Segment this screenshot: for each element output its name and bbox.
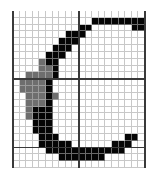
- pixel-empty: [92, 45, 99, 52]
- pixel-empty: [105, 127, 112, 134]
- pixel-empty: [39, 11, 46, 18]
- pixel-empty: [132, 93, 139, 100]
- pixel-empty: [105, 45, 112, 52]
- pixel-black: [33, 113, 40, 120]
- pixel-black: [46, 113, 53, 120]
- pixel-empty: [46, 18, 53, 25]
- pixel-empty: [20, 113, 27, 120]
- pixel-empty: [112, 38, 119, 45]
- pixel-gray: [26, 86, 33, 93]
- pixel-empty: [105, 134, 112, 141]
- pixel-empty: [66, 52, 73, 59]
- pixel-empty: [33, 38, 40, 45]
- pixel-empty: [66, 113, 73, 120]
- pixel-empty: [26, 59, 33, 66]
- pixel-empty: [66, 127, 73, 134]
- pixel-empty: [26, 134, 33, 141]
- pixel-empty: [112, 161, 119, 168]
- pixel-black: [39, 127, 46, 134]
- pixel-black: [59, 45, 66, 52]
- pixel-empty: [105, 107, 112, 114]
- pixel-empty: [79, 161, 86, 168]
- pixel-empty: [39, 31, 46, 38]
- pixel-empty: [53, 154, 60, 161]
- pixel-gray: [46, 66, 53, 73]
- pixel-black: [92, 154, 99, 161]
- pixel-black: [105, 148, 112, 155]
- pixel-empty: [66, 25, 73, 32]
- pixel-empty: [99, 161, 106, 168]
- pixel-black: [92, 18, 99, 25]
- pixel-empty: [92, 86, 99, 93]
- pixel-empty: [33, 66, 40, 73]
- pixel-empty: [46, 154, 53, 161]
- pixel-empty: [46, 38, 53, 45]
- pixel-empty: [86, 31, 93, 38]
- pixel-empty: [79, 66, 86, 73]
- pixel-empty: [33, 25, 40, 32]
- pixel-empty: [125, 154, 132, 161]
- pixel-empty: [79, 38, 86, 45]
- pixel-empty: [26, 120, 33, 127]
- pixel-empty: [119, 86, 126, 93]
- pixel-empty: [39, 38, 46, 45]
- pixel-empty: [66, 79, 73, 86]
- pixel-empty: [125, 161, 132, 168]
- pixel-empty: [33, 161, 40, 168]
- pixel-empty: [99, 31, 106, 38]
- pixel-empty: [112, 52, 119, 59]
- pixel-empty: [33, 11, 40, 18]
- pixel-empty: [112, 45, 119, 52]
- pixel-empty: [112, 134, 119, 141]
- pixel-black: [66, 45, 73, 52]
- pixel-black: [33, 120, 40, 127]
- pixel-empty: [119, 154, 126, 161]
- pixel-empty: [13, 134, 20, 141]
- pixel-empty: [92, 120, 99, 127]
- pixel-empty: [13, 154, 20, 161]
- pixel-empty: [125, 113, 132, 120]
- pixel-black: [112, 18, 119, 25]
- pixel-empty: [125, 25, 132, 32]
- pixel-empty: [20, 52, 27, 59]
- pixel-empty: [79, 107, 86, 114]
- pixel-black: [66, 31, 73, 38]
- pixel-empty: [59, 100, 66, 107]
- pixel-empty: [125, 11, 132, 18]
- pixel-black: [132, 18, 139, 25]
- pixel-empty: [59, 93, 66, 100]
- pixel-black: [53, 148, 60, 155]
- pixel-empty: [33, 18, 40, 25]
- pixel-empty: [46, 25, 53, 32]
- pixel-empty: [20, 66, 27, 73]
- pixel-empty: [20, 45, 27, 52]
- pixel-empty: [86, 86, 93, 93]
- pixel-empty: [26, 161, 33, 168]
- pixel-empty: [86, 120, 93, 127]
- pixel-empty: [13, 38, 20, 45]
- pixel-empty: [66, 93, 73, 100]
- pixel-empty: [33, 59, 40, 66]
- pixel-empty: [59, 161, 66, 168]
- pixel-black: [46, 134, 53, 141]
- pixel-empty: [125, 86, 132, 93]
- pixel-empty: [132, 100, 139, 107]
- pixel-black: [39, 134, 46, 141]
- pixel-empty: [79, 120, 86, 127]
- pixel-empty: [105, 161, 112, 168]
- pixel-gray: [33, 100, 40, 107]
- pixel-empty: [125, 93, 132, 100]
- pixel-empty: [112, 93, 119, 100]
- pixel-gray: [33, 86, 40, 93]
- pixel-empty: [13, 79, 20, 86]
- pixel-empty: [119, 100, 126, 107]
- pixel-empty: [86, 93, 93, 100]
- pixel-empty: [53, 38, 60, 45]
- pixel-empty: [53, 86, 60, 93]
- pixel-empty: [39, 18, 46, 25]
- pixel-black: [119, 18, 126, 25]
- pixel-empty: [53, 120, 60, 127]
- pixel-empty: [132, 107, 139, 114]
- pixel-empty: [99, 38, 106, 45]
- pixel-black: [112, 148, 119, 155]
